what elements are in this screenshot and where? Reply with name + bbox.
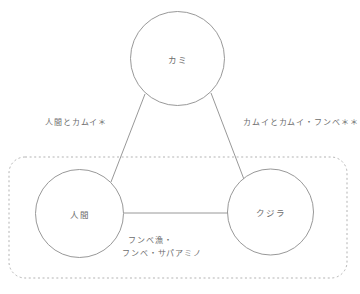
edge-label-ningen-kujira-line2: フンベ・サパアミノ: [122, 247, 202, 260]
edge-label-ningen-kujira-line1: フンベ漁・: [128, 236, 173, 245]
node-circle-ningen: [36, 170, 124, 258]
edge-ningen-kamui: [111, 94, 145, 182]
diagram-canvas: カミ 人間 クジラ 人間とカムイ＊ カムイとカムイ・フンベ＊＊ フンベ漁・ フン…: [0, 0, 360, 294]
node-circle-kamui: [131, 12, 225, 106]
edge-label-kamui-kujira: カムイとカムイ・フンベ＊＊: [243, 116, 359, 129]
edge-label-ningen-kamui: 人間とカムイ＊: [45, 116, 107, 129]
node-circle-kujira: [228, 169, 314, 255]
edge-kamui-kujira: [211, 93, 245, 182]
edge-label-ningen-kujira: フンベ漁・ フンベ・サパアミノ: [128, 234, 202, 260]
